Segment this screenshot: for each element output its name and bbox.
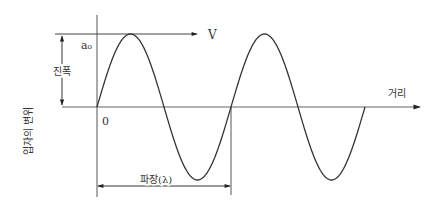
distance-axis-label: 거리: [388, 88, 406, 99]
wave-diagram: a₀ V 진폭 0 거리 입자의 변위 파장(λ): [0, 0, 440, 208]
amplitude-label: 진폭: [53, 66, 71, 77]
wavelength-label: 파장(λ): [140, 174, 172, 185]
origin-label: 0: [102, 115, 109, 128]
amplitude-symbol-label: a₀: [81, 39, 93, 52]
displacement-axis-label: 입자의 변위: [22, 107, 34, 155]
velocity-label: V: [207, 28, 217, 42]
